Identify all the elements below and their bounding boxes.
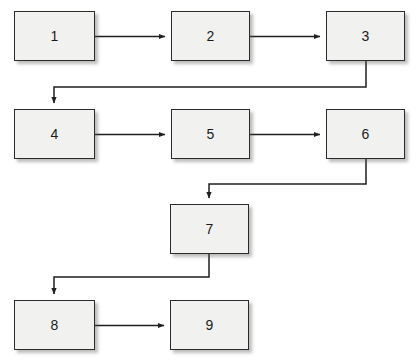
flow-node-1[interactable]: 1 [14,11,95,61]
flow-node-label: 9 [206,318,214,332]
flow-node-9[interactable]: 9 [170,300,249,350]
flow-node-3[interactable]: 3 [326,11,405,61]
flow-node-8[interactable]: 8 [14,300,95,350]
flow-node-label: 6 [362,127,370,141]
flow-node-label: 8 [51,318,59,332]
flow-node-label: 3 [362,29,370,43]
edge-3-to-4 [54,61,366,103]
flow-node-label: 7 [206,222,214,236]
flow-node-6[interactable]: 6 [326,109,405,159]
edge-6-to-7 [209,159,366,198]
flow-node-2[interactable]: 2 [171,11,250,61]
flow-node-label: 5 [207,127,215,141]
flow-node-4[interactable]: 4 [14,109,95,159]
flow-node-label: 2 [207,29,215,43]
flow-node-7[interactable]: 7 [170,204,249,254]
flow-node-label: 4 [51,127,59,141]
flow-node-label: 1 [51,29,59,43]
edge-7-to-8 [54,254,209,294]
flowchart-canvas: 1 2 3 4 5 6 7 8 9 [0,0,417,363]
flow-node-5[interactable]: 5 [171,109,250,159]
